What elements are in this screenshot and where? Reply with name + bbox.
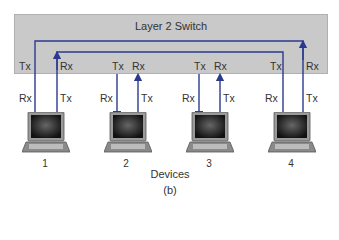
laptop-icon (186, 112, 234, 156)
port4-tx-label: Tx (270, 61, 282, 72)
device-1-number: 1 (39, 158, 51, 169)
dev1-tx-label: Tx (60, 93, 72, 104)
laptop-icon (104, 112, 152, 156)
dev2-tx-label: Tx (141, 93, 153, 104)
port2-tx-label: Tx (112, 61, 124, 72)
dev4-tx-label: Tx (306, 93, 318, 104)
dev4-rx-label: Rx (265, 93, 278, 104)
laptop-icon (22, 112, 70, 156)
port2-rx-label: Rx (132, 61, 145, 72)
laptop-icon (268, 112, 316, 156)
port3-rx-label: Rx (214, 61, 227, 72)
dev3-rx-label: Rx (182, 93, 195, 104)
port3-tx-label: Tx (194, 61, 206, 72)
inner-wire (57, 52, 283, 118)
dev2-rx-label: Rx (100, 93, 113, 104)
port1-rx-label: Rx (60, 61, 73, 72)
dev3-tx-label: Tx (223, 93, 235, 104)
device-4-number: 4 (285, 158, 297, 169)
dev1-rx-label: Rx (19, 93, 32, 104)
subfigure-label: (b) (130, 184, 210, 196)
port1-tx-label: Tx (19, 61, 31, 72)
port4-rx-label: Rx (306, 61, 319, 72)
devices-caption: Devices (130, 168, 210, 180)
